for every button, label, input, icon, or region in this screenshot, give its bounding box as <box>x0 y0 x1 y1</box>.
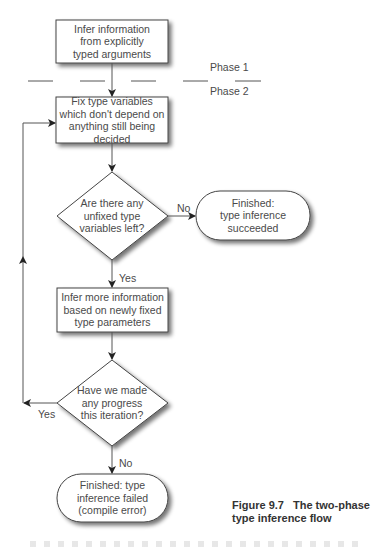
node-line: which don't depend on <box>54 108 170 121</box>
node-line: Infer more information <box>61 291 164 304</box>
node-unfixed-check: Are there anyunfixed typevariables left? <box>62 194 162 238</box>
node-fix-vars: Fix type variableswhich don't depend ona… <box>54 97 170 143</box>
node-infer-more: Infer more informationbased on newly fix… <box>57 288 168 332</box>
node-line: any progress <box>77 397 147 410</box>
node-line: Infer information <box>73 23 151 36</box>
node-line: anything still being decided <box>54 120 170 145</box>
edge-label-unfixed-no: No <box>177 202 190 214</box>
node-line: Finished: <box>220 197 286 210</box>
node-line: (compile error) <box>77 504 148 517</box>
node-progress-check: Have we madeany progressthis iteration? <box>62 381 162 425</box>
node-line: type parameters <box>61 316 164 329</box>
node-line: succeeded <box>220 222 286 235</box>
edge-label-unfixed-yes: Yes <box>119 272 136 284</box>
caption-line-2: type inference flow <box>232 512 370 525</box>
node-line: based on newly fixed <box>61 304 164 317</box>
node-infer-explicit: Infer informationfrom explicitlytyped ar… <box>56 20 168 63</box>
caption-line-1: The two-phase <box>293 499 370 511</box>
node-line: typed arguments <box>73 48 151 61</box>
node-line: variables left? <box>80 222 145 235</box>
figure-caption: Figure 9.7The two-phase type inference f… <box>232 499 370 525</box>
node-succeeded: Finished:type inferencesucceeded <box>196 191 310 240</box>
node-line: Fix type variables <box>54 95 170 108</box>
node-line: Finished: type <box>77 479 148 492</box>
edge-label-progress-no: No <box>119 457 132 469</box>
figure-number: Figure 9.7 <box>232 499 284 511</box>
node-line: type inference <box>220 209 286 222</box>
flowchart-canvas <box>0 0 373 547</box>
node-line: Have we made <box>77 384 147 397</box>
node-failed: Finished: typeinference failed(compile e… <box>57 474 168 522</box>
node-line: Are there any <box>80 197 145 210</box>
edge-label-progress-yes: Yes <box>38 408 55 420</box>
node-line: unfixed type <box>80 210 145 223</box>
phase-2-label: Phase 2 <box>210 85 249 97</box>
node-line: inference failed <box>77 492 148 505</box>
node-line: this iteration? <box>77 409 147 422</box>
phase-1-label: Phase 1 <box>210 61 249 73</box>
cutoff-text-strip <box>30 541 360 547</box>
node-line: from explicitly <box>73 35 151 48</box>
